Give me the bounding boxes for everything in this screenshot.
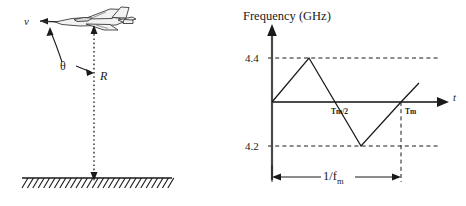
x-axis [272, 97, 449, 107]
technical-figure: v [0, 0, 466, 206]
half-period-marker-label: Tm/2 [331, 107, 348, 116]
frequency-plot-panel: Frequency (GHz) 4.4 4.2 t Tm/2 Tm [233, 0, 466, 206]
velocity-label: v [24, 15, 29, 27]
x-axis-label: t [453, 92, 457, 103]
fighter-jet-silhouette [40, 7, 136, 30]
period-marker-label: Tm [405, 107, 417, 116]
range-label: R [99, 69, 108, 83]
angle-arrow-head-lower [86, 69, 94, 76]
ytick-label-lower: 4.2 [245, 140, 259, 152]
y-axis-title: Frequency (GHz) [243, 9, 331, 23]
radar-geometry-panel: v [0, 0, 233, 206]
angle-arrow-head-upper [47, 27, 54, 36]
angle-label: θ [60, 59, 66, 73]
range-line [91, 25, 98, 181]
angle-theta-indicator [50, 30, 91, 72]
ytick-label-upper: 4.4 [245, 52, 259, 64]
hatched-ground-line [22, 178, 174, 188]
